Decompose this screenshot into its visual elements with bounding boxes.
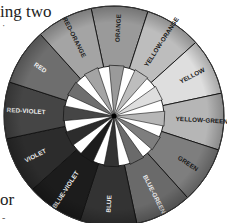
color-wheel: ORANGEYELLOW-ORANGEYELLOWYELLOW-GREENGRE… — [0, 0, 227, 223]
wheel-center-dot — [112, 114, 117, 119]
